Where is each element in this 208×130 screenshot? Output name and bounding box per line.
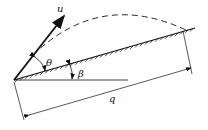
projectile-incline-diagram: u θ β q (0, 0, 208, 130)
range-label: q (109, 93, 115, 104)
theta-label: θ (46, 57, 52, 68)
range-dimension (14, 31, 192, 120)
velocity-vector (14, 16, 64, 80)
velocity-label: u (57, 3, 63, 14)
beta-label: β (77, 68, 84, 79)
inclined-plane (14, 28, 195, 82)
theta-arc (35, 57, 45, 71)
beta-arc (70, 65, 72, 79)
trajectory-path (33, 15, 186, 55)
